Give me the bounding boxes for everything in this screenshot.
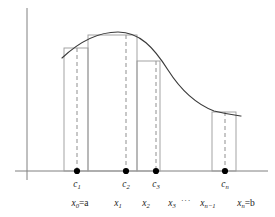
partition-label-xn-1: xn−1 <box>200 199 215 209</box>
function-curve <box>62 32 241 116</box>
riemann-rect-2 <box>88 35 137 171</box>
riemann-rect-n <box>212 112 236 171</box>
sample-dot-c2 <box>123 168 129 174</box>
sample-dot-c1 <box>74 168 80 174</box>
partition-label-x1: x1 <box>114 199 122 209</box>
riemann-rectangles <box>64 35 236 171</box>
sample-dot-cn <box>222 168 228 174</box>
sample-dashed-lines <box>77 35 225 170</box>
figure-canvas <box>0 0 275 217</box>
sample-label-c2: c2 <box>122 180 130 190</box>
partition-ellipsis: ··· <box>181 197 191 205</box>
sample-label-c1: c1 <box>73 180 81 190</box>
partition-label-xn: xn=b <box>237 199 255 209</box>
sample-label-cn: cn <box>221 180 229 190</box>
axes-group <box>15 8 268 180</box>
sample-dot-c3 <box>153 168 159 174</box>
partition-label-x2: x2 <box>142 199 150 209</box>
sample-label-c3: c3 <box>152 180 160 190</box>
partition-label-x3: x3 <box>168 199 176 209</box>
riemann-sum-figure: c1 c2 c3 cn x0=a x1 x2 x3 ··· xn−1 xn=b <box>0 0 275 217</box>
riemann-rect-1 <box>64 48 88 171</box>
partition-label-x0: x0=a <box>71 199 88 209</box>
